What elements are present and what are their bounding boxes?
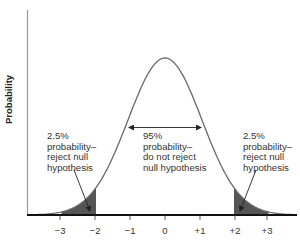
x-tick-label: +2 xyxy=(230,225,241,236)
x-tick-label: +1 xyxy=(195,225,206,236)
normal-distribution-chart xyxy=(0,0,300,245)
x-tick-label: −2 xyxy=(90,225,101,236)
y-axis-label: Probability xyxy=(3,75,14,124)
x-tick-label: −3 xyxy=(55,225,66,236)
x-tick-label: −1 xyxy=(125,225,136,236)
x-tick-label: 0 xyxy=(162,225,167,236)
acceptance-annotation: 95% probability– do not reject null hypo… xyxy=(143,131,206,173)
left-tail-annotation: 2.5% probability– reject null hypothesis xyxy=(47,131,96,173)
x-tick-label: +3 xyxy=(262,225,273,236)
right-tail-annotation: 2.5% probability– reject null hypothesis xyxy=(243,131,292,173)
